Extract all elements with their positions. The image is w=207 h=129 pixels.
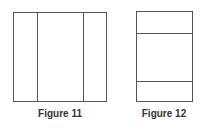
figure-11-left-divider xyxy=(37,13,38,101)
figure-12-top-divider xyxy=(137,33,192,34)
figure-12-caption: Figure 12 xyxy=(134,108,194,119)
figure-12-diagram xyxy=(136,11,193,102)
figure-11-diagram xyxy=(13,12,107,102)
figure-11-caption: Figure 11 xyxy=(30,108,90,119)
figure-12-bottom-divider xyxy=(137,81,192,82)
figure-11-right-divider xyxy=(83,13,84,101)
